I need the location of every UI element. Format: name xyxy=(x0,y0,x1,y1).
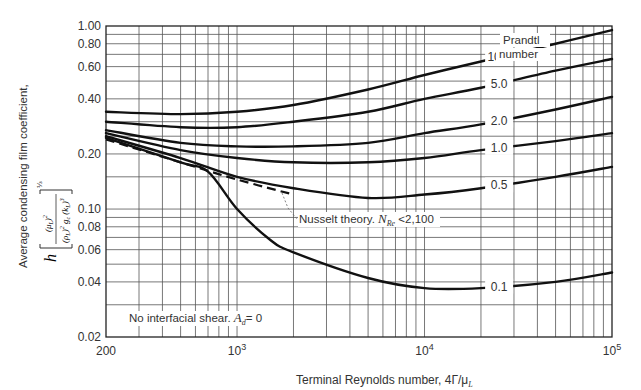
x-tick-label: 103 xyxy=(228,342,246,358)
y-tick-label: 0.20 xyxy=(78,147,102,161)
y-tick-label: 0.06 xyxy=(78,243,102,257)
nusselt-text: Nusselt theory. xyxy=(299,213,378,225)
x-tick-label: 200 xyxy=(96,344,116,358)
x-tick-labels: 200103104105 xyxy=(96,342,621,358)
nusselt-leader-line xyxy=(282,193,297,219)
y-tick-label: 0.10 xyxy=(78,202,102,216)
svg-text:(ρL)2 gc (kL)3: (ρL)2 gc (kL)3 xyxy=(59,198,71,243)
axes-frame xyxy=(106,26,612,337)
svg-text:(μL)2: (μL)2 xyxy=(42,215,54,232)
shear-annotation: No interfacial shear. Ad= 0 xyxy=(126,310,266,327)
legend-title: Prandtl number xyxy=(496,33,550,61)
plot-frame xyxy=(106,26,612,337)
y-tick-label: 1.00 xyxy=(78,19,102,33)
prandtl-curve-5-0 xyxy=(106,59,612,128)
x-axis-title: Terminal Reynolds number, 4Γ/μL xyxy=(296,373,473,389)
curve-label: 0.1 xyxy=(491,280,508,294)
legend-title-number: number xyxy=(499,48,538,60)
y-tick-label: 0.02 xyxy=(78,330,102,344)
svg-text:h: h xyxy=(42,254,59,262)
legend-title-prandtl: Prandtl xyxy=(503,34,539,46)
prandtl-curves xyxy=(106,30,612,289)
curve-label: 2.0 xyxy=(491,114,508,128)
x-tick-label: 104 xyxy=(415,342,433,358)
shear-text: No interfacial shear. xyxy=(129,312,234,324)
y-axis-title: Average condensing film coefficient, h (… xyxy=(17,84,72,268)
y-tick-labels: 1.000.800.600.400.200.100.080.060.040.02 xyxy=(78,19,102,344)
curve-labels: 10.05.02.01.00.50.1 xyxy=(485,49,513,293)
curve-label: 1.0 xyxy=(491,141,508,155)
y-tick-label: 0.08 xyxy=(78,220,102,234)
curve-label: 0.5 xyxy=(491,178,508,192)
y-tick-label: 0.04 xyxy=(78,275,102,289)
y-axis-title-formula: h (μL)2 (ρL)2 gc (kL)3 ⅓ xyxy=(35,181,72,262)
prandtl-curve-0-5 xyxy=(106,136,612,198)
y-axis-title-line1: Average condensing film coefficient, xyxy=(17,84,29,268)
curve-label: 5.0 xyxy=(491,77,508,91)
grid-lines xyxy=(106,26,612,337)
y-tick-label: 0.80 xyxy=(78,37,102,51)
condensing-film-chart: 1.000.800.600.400.200.100.080.060.040.02… xyxy=(0,0,641,390)
y-tick-label: 0.60 xyxy=(78,60,102,74)
svg-text:⅓: ⅓ xyxy=(35,181,44,188)
y-tick-label: 0.40 xyxy=(78,92,102,106)
x-tick-label: 105 xyxy=(603,342,621,358)
